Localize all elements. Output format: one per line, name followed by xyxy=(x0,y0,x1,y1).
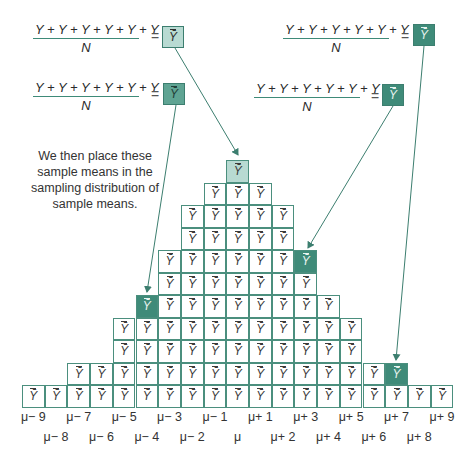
arrow-to-mu-plus-3 xyxy=(308,106,393,248)
arrow-to-mu-plus-7 xyxy=(396,46,424,360)
arrow-to-mu xyxy=(175,48,238,155)
arrows-layer xyxy=(0,0,473,467)
arrow-to-mu-minus-4 xyxy=(147,105,176,292)
